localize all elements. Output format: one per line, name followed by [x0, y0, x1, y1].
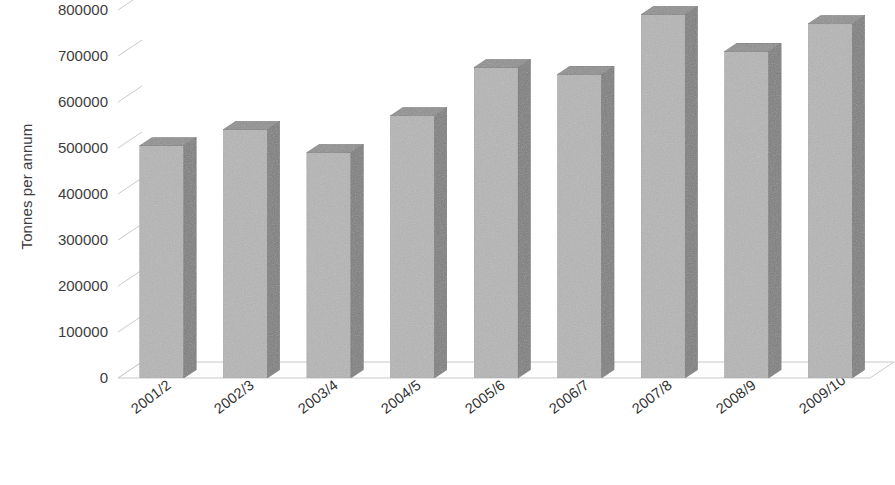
bar: [223, 121, 279, 378]
bar: [725, 43, 781, 378]
bar-series: [140, 6, 865, 378]
bar: [390, 107, 446, 378]
bar: [808, 15, 864, 378]
bar-chart: Tonnes per annum 01000002000003000004000…: [0, 0, 895, 485]
plot-area: [0, 0, 895, 485]
bar: [558, 66, 614, 378]
bar: [307, 144, 363, 378]
bar: [140, 137, 196, 378]
bar: [474, 59, 530, 378]
bar: [641, 6, 697, 378]
